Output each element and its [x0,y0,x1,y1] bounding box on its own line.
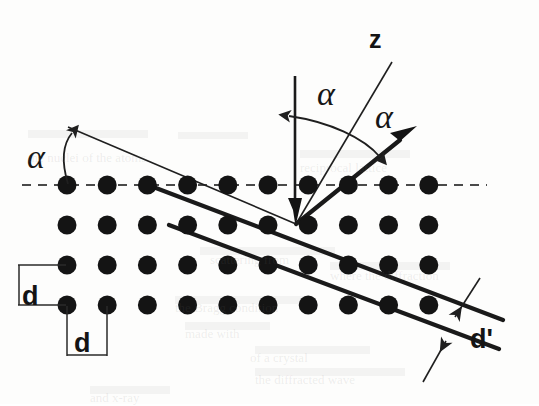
lattice-atom [339,216,358,235]
lattice-atom [178,216,197,235]
d-vertical-label: d [22,281,39,311]
d-prime-arrow-lower [423,341,446,382]
lattice-atom [98,216,117,235]
lattice-atom [379,176,398,195]
bragg-plane-line-2 [169,225,499,349]
lattice-atom [259,296,278,315]
lattice-atom [339,176,358,195]
alpha-left-label: α [27,138,46,175]
incident-ray-lower-segment [68,127,296,224]
lattice-atom [178,256,197,275]
lattice-atom [218,256,237,275]
lattice-atom [419,216,438,235]
lattice-atom [419,176,438,195]
lattice-atom [339,256,358,275]
lattice-atom-grid [58,176,439,315]
lattice-atom [259,216,278,235]
lattice-atom [138,216,157,235]
lattice-atom [419,256,438,275]
lattice-atom [379,296,398,315]
lattice-atom [58,216,77,235]
lattice-atom [138,176,157,195]
lattice-atom [218,216,237,235]
z-axis-label: z [369,25,382,53]
d-prime-label: d' [470,324,493,354]
lattice-atom [98,176,117,195]
lattice-atom [299,176,318,195]
lattice-atom [98,256,117,275]
lattice-atom [339,296,358,315]
lattice-atom [259,256,278,275]
lattice-atom [138,256,157,275]
lattice-atom [299,296,318,315]
lattice-atom [178,176,197,195]
alpha-incident-label: α [317,75,336,112]
alpha-scattered-label: α [375,98,394,135]
lattice-atom [299,256,318,275]
lattice-atom [379,216,398,235]
lattice-atom [218,296,237,315]
lattice-atom [138,296,157,315]
lattice-atom [379,256,398,275]
lattice-atom [259,176,278,195]
d-horizontal-label: d [74,328,91,358]
incident-ray-upper-segment [296,62,392,224]
lattice-atom [419,296,438,315]
lattice-atom [218,176,237,195]
lattice-atom [299,216,318,235]
lattice-atom [178,296,197,315]
